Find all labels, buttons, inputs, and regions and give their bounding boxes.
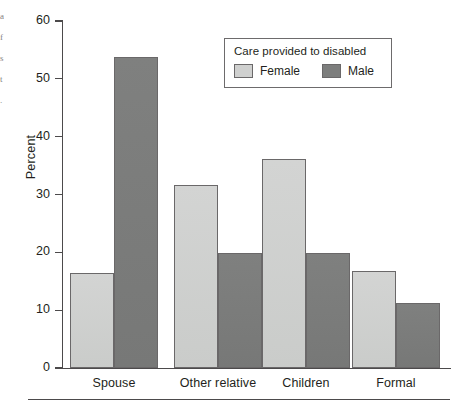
legend-entry-female: Female	[234, 64, 300, 78]
x-category-label-formal: Formal	[327, 376, 455, 390]
y-tick-60	[55, 20, 63, 21]
y-tick-label-30: 30	[18, 187, 50, 201]
legend-title: Care provided to disabled	[234, 44, 382, 58]
bar-spouse-male	[114, 57, 158, 368]
bar-spouse-female	[70, 273, 114, 368]
legend-swatch-female-icon	[234, 64, 253, 78]
legend-entry-male: Male	[322, 64, 374, 78]
legend-swatch-male-icon	[322, 64, 341, 78]
y-tick-label-50: 50	[18, 71, 50, 85]
bar-formal-female	[352, 271, 396, 368]
y-tick-10	[55, 310, 63, 311]
y-tick-20	[55, 252, 63, 253]
y-tick-50	[55, 78, 63, 79]
y-tick-label-40: 40	[18, 129, 50, 143]
margin-glyph-1: f	[0, 27, 9, 48]
bar-formal-male	[396, 303, 440, 368]
y-tick-40	[55, 136, 63, 137]
y-tick-30	[55, 194, 63, 195]
y-tick-label-60: 60	[18, 13, 50, 27]
page-margin-glyphs: afst.	[0, 6, 9, 124]
legend-entries: FemaleMale	[234, 64, 382, 78]
bar-other-relative-female	[174, 185, 218, 368]
bar-children-male	[306, 253, 350, 368]
y-tick-0	[55, 367, 63, 368]
margin-glyph-4: .	[0, 90, 9, 111]
bar-other-relative-male	[218, 253, 262, 368]
bar-children-female	[262, 159, 306, 368]
bar-chart-figure: afst. Percent 0102030405060 SpouseOther …	[0, 0, 455, 412]
margin-glyph-2: s	[0, 48, 9, 69]
chart-legend: Care provided to disabled FemaleMale	[224, 38, 392, 88]
legend-label-female: Female	[260, 64, 300, 78]
y-tick-label-20: 20	[18, 244, 50, 258]
y-tick-label-10: 10	[18, 302, 50, 316]
legend-label-male: Male	[348, 64, 374, 78]
bottom-horizontal-rule	[28, 399, 450, 400]
margin-glyph-0: a	[0, 6, 9, 27]
y-tick-label-0: 0	[18, 360, 50, 374]
margin-glyph-3: t	[0, 69, 9, 90]
